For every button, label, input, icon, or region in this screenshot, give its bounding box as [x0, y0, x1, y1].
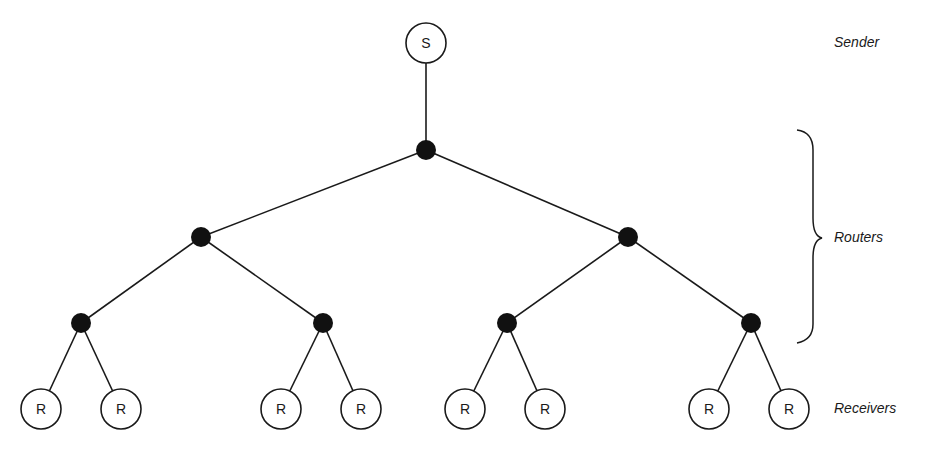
sender-node-label: S: [421, 35, 430, 51]
tree-edge: [201, 150, 426, 237]
router-node: [71, 313, 91, 333]
receiver-node-label: R: [784, 401, 794, 417]
router-node: [618, 227, 638, 247]
router-node: [741, 313, 761, 333]
sender-label: Sender: [834, 34, 879, 50]
receiver-node: R: [525, 389, 565, 429]
receiver-node-label: R: [276, 401, 286, 417]
router-nodes: [71, 140, 761, 333]
router-node: [191, 227, 211, 247]
tree-edge: [426, 150, 628, 237]
router-node: [497, 313, 517, 333]
routers-label: Routers: [834, 229, 883, 245]
receiver-node-label: R: [36, 401, 46, 417]
receiver-node: R: [101, 389, 141, 429]
router-node: [313, 313, 333, 333]
sender-node: S: [406, 23, 446, 63]
receiver-node: R: [689, 389, 729, 429]
receiver-node-label: R: [704, 401, 714, 417]
receiver-node: R: [21, 389, 61, 429]
receiver-node-label: R: [460, 401, 470, 417]
routers-brace: [797, 130, 822, 343]
receiver-node-label: R: [540, 401, 550, 417]
receiver-node-label: R: [116, 401, 126, 417]
tree-edge: [628, 237, 751, 323]
tree-edges: [41, 43, 789, 409]
receivers-label: Receivers: [834, 400, 896, 416]
tree-edge: [201, 237, 323, 323]
tree-edge: [81, 237, 201, 323]
router-node: [416, 140, 436, 160]
tree-edge: [507, 237, 628, 323]
receiver-node: R: [769, 389, 809, 429]
receiver-node: R: [261, 389, 301, 429]
receiver-node: R: [341, 389, 381, 429]
receiver-node-label: R: [356, 401, 366, 417]
multicast-tree-diagram: SRRRRRRRR: [0, 0, 926, 460]
receiver-node: R: [445, 389, 485, 429]
endpoint-nodes: SRRRRRRRR: [21, 23, 809, 429]
